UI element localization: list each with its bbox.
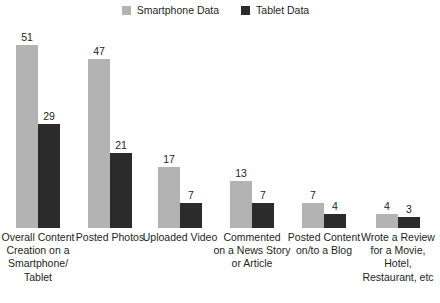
bar[interactable] <box>252 203 274 228</box>
category-label-line: for a Movie, <box>350 244 440 257</box>
bar-group: 177 <box>158 0 202 228</box>
bar-group: 74 <box>302 0 346 228</box>
category-label-line: Tablet <box>0 271 86 284</box>
bar-value-label: 17 <box>158 154 180 165</box>
bar-group: 5129 <box>16 0 60 228</box>
bar-value-label: 21 <box>110 140 132 151</box>
bar[interactable] <box>16 45 38 228</box>
category-label: Wrote a Reviewfor a Movie,Hotel,Restaura… <box>350 231 440 284</box>
bar-group: 4721 <box>88 0 132 228</box>
bar[interactable] <box>180 203 202 228</box>
bar-value-label: 7 <box>302 190 324 201</box>
bar-value-label: 7 <box>252 190 274 201</box>
bar-group: 137 <box>230 0 274 228</box>
bar-value-label: 4 <box>376 201 398 212</box>
bar[interactable] <box>376 214 398 228</box>
bar[interactable] <box>88 59 110 228</box>
bar[interactable] <box>38 124 60 228</box>
category-label-line: Creation on a <box>0 244 86 257</box>
bar[interactable] <box>324 214 346 228</box>
bar[interactable] <box>110 153 132 228</box>
bar-value-label: 3 <box>398 204 420 215</box>
bar[interactable] <box>230 181 252 228</box>
category-label-line: or Article <box>204 257 300 270</box>
bar[interactable] <box>398 217 420 228</box>
bar-group: 43 <box>376 0 420 228</box>
bar-value-label: 4 <box>324 201 346 212</box>
category-label-line: Wrote a Review <box>350 231 440 244</box>
bar-value-label: 47 <box>88 46 110 57</box>
bar-value-label: 51 <box>16 32 38 43</box>
category-label-line: Smartphone/ <box>0 257 86 270</box>
bar[interactable] <box>302 203 324 228</box>
bar[interactable] <box>158 167 180 228</box>
category-label-line: Hotel, <box>350 257 440 270</box>
bar-value-label: 13 <box>230 168 252 179</box>
category-label-line: Restaurant, etc <box>350 271 440 284</box>
bar-value-label: 29 <box>38 111 60 122</box>
bar-value-label: 7 <box>180 190 202 201</box>
chart-plot-area: 512947211771377443 <box>0 0 431 228</box>
chart-category-axis: Overall ContentCreation on aSmartphone/T… <box>0 231 431 303</box>
